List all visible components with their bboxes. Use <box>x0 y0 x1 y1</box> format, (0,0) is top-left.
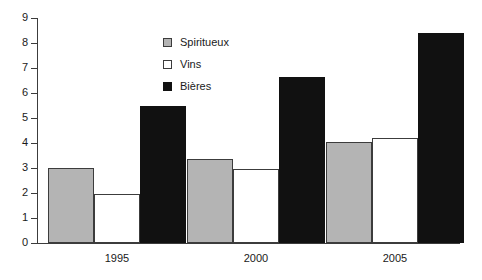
y-axis-tick-label-wrap: 2 <box>0 187 28 198</box>
y-axis-tick-label-wrap: 7 <box>0 62 28 73</box>
y-axis-tick-label-wrap: 3 <box>0 162 28 173</box>
y-axis-tick-label: 6 <box>6 87 28 98</box>
grouped-bar-chart: 0123456789 199520002005 SpiritueuxVinsBi… <box>0 0 482 280</box>
bar-vins-1995 <box>94 194 140 243</box>
bar-bieres-2000 <box>279 77 325 243</box>
y-axis-tick-label: 5 <box>6 112 28 123</box>
legend-item-bieres[interactable]: Bières <box>163 77 229 96</box>
y-axis-tick-label: 8 <box>6 37 28 48</box>
y-axis-tick-label-wrap: 8 <box>0 37 28 48</box>
legend-item-label: Spiritueux <box>180 37 229 48</box>
x-axis-tick-label: 2000 <box>226 252 286 264</box>
legend-item-vins[interactable]: Vins <box>163 55 229 74</box>
legend-item-spiritueux[interactable]: Spiritueux <box>163 33 229 52</box>
y-axis-tick-label: 1 <box>6 212 28 223</box>
bar-spiritueux-2000 <box>187 159 233 243</box>
y-axis-tick-label: 4 <box>6 137 28 148</box>
bar-spiritueux-1995 <box>48 168 94 243</box>
x-axis-tick-label: 2005 <box>365 252 425 264</box>
legend-swatch-bieres-icon <box>163 82 172 91</box>
y-axis-tick-label: 7 <box>6 62 28 73</box>
y-axis-tick-label-wrap: 5 <box>0 112 28 123</box>
y-axis-tick-label-wrap: 6 <box>0 87 28 98</box>
legend-item-label: Vins <box>180 59 201 70</box>
chart-legend: SpiritueuxVinsBières <box>163 33 229 99</box>
x-axis-line <box>37 243 460 244</box>
legend-swatch-spiritueux-icon <box>163 38 172 47</box>
y-axis-tick-label-wrap: 1 <box>0 212 28 223</box>
y-axis-tick-label: 3 <box>6 162 28 173</box>
plot-area <box>37 18 460 243</box>
y-axis-tick-label-wrap: 9 <box>0 12 28 23</box>
y-axis-tick-label-wrap: 0 <box>0 237 28 248</box>
legend-item-label: Bières <box>180 81 211 92</box>
x-axis-tick-label: 1995 <box>87 252 147 264</box>
bar-bieres-2005 <box>418 33 464 243</box>
bar-vins-2000 <box>233 169 279 243</box>
bar-spiritueux-2005 <box>326 142 372 243</box>
y-axis-tick-label: 2 <box>6 187 28 198</box>
y-axis-tick-label-wrap: 4 <box>0 137 28 148</box>
y-axis-tick-label: 9 <box>6 12 28 23</box>
bar-bieres-1995 <box>140 106 186 244</box>
legend-swatch-vins-icon <box>163 60 172 69</box>
y-axis-tick-label: 0 <box>6 237 28 248</box>
bar-vins-2005 <box>372 138 418 243</box>
